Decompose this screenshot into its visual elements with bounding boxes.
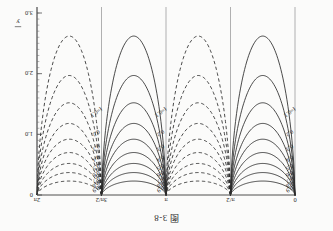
- contour-curve: [231, 181, 296, 195]
- scanned-figure-page: 图 3-8 01.02.03.00π/2π3π/22πxy 0.90.80.70…: [0, 0, 333, 231]
- contour-curve: [166, 173, 231, 195]
- x-axis-tick-label: π: [164, 197, 168, 204]
- contour-label: 0.2: [91, 129, 101, 138]
- plot-area: 01.02.03.00π/2π3π/22πxy 0.90.80.70.60.50…: [0, 5, 333, 205]
- x-axis-tick-label: 0: [293, 197, 296, 204]
- contour-curve: [37, 173, 102, 195]
- contour-label: f=0.1: [89, 106, 103, 119]
- y-axis-label: y: [16, 18, 20, 26]
- x-axis-tick-label: 3π/2: [96, 197, 108, 204]
- contour-labels-group: 0.90.80.70.60.50.40.30.2f=0.10.90.80.70.…: [89, 106, 296, 194]
- x-axis-label: x: [164, 204, 168, 205]
- y-axis-tick-label: 0: [30, 192, 33, 199]
- contour-curve: [231, 173, 296, 195]
- contour-label: f=0.1: [283, 106, 297, 119]
- x-axis-tick-label: π/2: [226, 197, 234, 204]
- contour-curve: [166, 181, 231, 195]
- contour-curve: [102, 173, 167, 195]
- contour-label: f=0.1: [154, 106, 168, 119]
- contour-curve: [37, 181, 102, 195]
- contour-curve: [166, 163, 231, 195]
- contour-plot-svg: 01.02.03.00π/2π3π/22πxy 0.90.80.70.60.50…: [0, 5, 333, 205]
- contour-curve: [102, 181, 167, 195]
- y-axis-tick-label: 2.0: [25, 70, 33, 77]
- y-axis-tick-label: 1.0: [25, 131, 33, 138]
- y-axis-tick-label: 3.0: [25, 10, 33, 17]
- x-axis-tick-label: 2π: [33, 197, 40, 204]
- figure-caption: 图 3-8: [0, 212, 333, 225]
